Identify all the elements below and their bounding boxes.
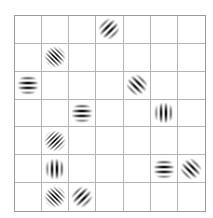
grid-cell — [15, 16, 42, 44]
grid-cell — [178, 100, 205, 128]
grid-cell — [151, 155, 178, 183]
grid-cell — [124, 44, 151, 72]
grid-cell — [96, 155, 123, 183]
grid-cell — [151, 127, 178, 155]
gabor-patch-diagonal-left-icon — [44, 46, 66, 68]
grid-cell — [42, 155, 69, 183]
grid-cell — [124, 100, 151, 128]
grid-cell — [96, 72, 123, 100]
grid-cell — [151, 183, 178, 211]
grid-cell — [42, 16, 69, 44]
grid-cell — [96, 127, 123, 155]
grid-cell — [69, 100, 96, 128]
grid-cell — [178, 155, 205, 183]
gabor-patch-diagonal-left-icon — [180, 158, 202, 180]
grid-cell — [124, 155, 151, 183]
grid-cell — [124, 16, 151, 44]
grid-cell — [42, 100, 69, 128]
grid-cell — [42, 72, 69, 100]
gabor-patch-diagonal-left-icon — [126, 74, 148, 96]
grid-cell — [178, 127, 205, 155]
grid-cell — [151, 16, 178, 44]
grid-cell — [178, 16, 205, 44]
gabor-patch-horizontal-icon — [153, 158, 175, 180]
grid-cell — [124, 183, 151, 211]
grid-cell — [42, 127, 69, 155]
gabor-patch-vertical-icon — [153, 102, 175, 124]
grid-cell — [96, 16, 123, 44]
grid-cell — [151, 100, 178, 128]
grid-cell — [15, 100, 42, 128]
grid-cell — [96, 44, 123, 72]
grid-cell — [124, 72, 151, 100]
grid-cell — [15, 155, 42, 183]
grid-cell — [69, 155, 96, 183]
grid-cell — [15, 72, 42, 100]
grid-cell — [178, 183, 205, 211]
gabor-patch-diagonal-right-icon — [71, 186, 93, 208]
grid-cell — [15, 44, 42, 72]
grid-cell — [151, 44, 178, 72]
gabor-patch-vertical-icon — [44, 158, 66, 180]
grid-cell — [69, 127, 96, 155]
grid-cell — [69, 44, 96, 72]
grid-cell — [15, 183, 42, 211]
gabor-patch-horizontal-icon — [17, 74, 39, 96]
grid-cell — [178, 72, 205, 100]
grid-cell — [15, 127, 42, 155]
grid-cell — [42, 183, 69, 211]
grid-cell — [178, 44, 205, 72]
grid-cell — [69, 16, 96, 44]
gabor-patch-diagonal-right-icon — [44, 130, 66, 152]
grid-cell — [124, 127, 151, 155]
gabor-patch-horizontal-icon — [71, 102, 93, 124]
grid-cell — [42, 44, 69, 72]
grid-cell — [69, 183, 96, 211]
grid-cell — [151, 72, 178, 100]
grid-cell — [96, 183, 123, 211]
gabor-grid — [14, 15, 206, 212]
grid-cell — [96, 100, 123, 128]
gabor-patch-diagonal-left-icon — [44, 186, 66, 208]
gabor-patch-diagonal-right-icon — [98, 18, 120, 40]
grid-cell — [69, 72, 96, 100]
